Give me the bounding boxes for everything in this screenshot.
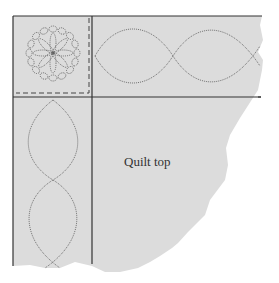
quilt-fabric [13, 16, 263, 272]
quilt-diagram [0, 0, 279, 283]
quilt-top-label: Quilt top [124, 154, 171, 170]
